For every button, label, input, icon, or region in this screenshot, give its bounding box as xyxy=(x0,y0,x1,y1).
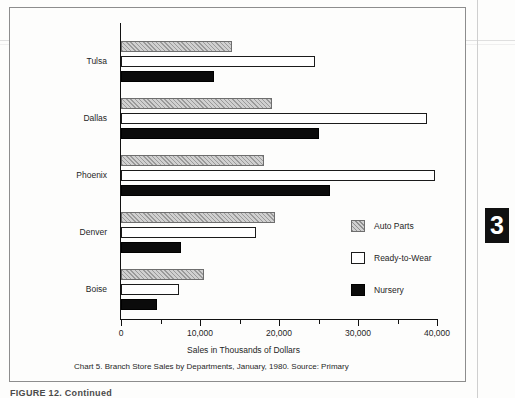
page-thumb-tab: 3 xyxy=(485,208,509,243)
bar-tulsa-nursery xyxy=(121,71,214,82)
x-tick-0 xyxy=(121,319,122,326)
legend-item: Ready-to-Wear xyxy=(351,251,471,265)
bar-dallas-ready-to-wear xyxy=(121,113,427,124)
legend-item: Nursery xyxy=(351,283,471,297)
x-tick-label-40000: 40,000 xyxy=(424,328,450,338)
legend-item: Auto Parts xyxy=(351,219,471,233)
x-axis-title-text: Sales in Thousands of Dollars xyxy=(187,345,300,355)
bar-group xyxy=(121,98,437,143)
x-tick-label-20000: 20,000 xyxy=(266,328,292,338)
legend-swatch-nursery xyxy=(351,284,365,296)
bar-phoenix-nursery xyxy=(121,185,330,196)
x-tick-label-0: 0 xyxy=(119,328,124,338)
figure-caption-cutoff: FIGURE 12. Continued xyxy=(10,388,112,398)
x-tick-label-10000: 10,000 xyxy=(187,328,213,338)
bar-boise-ready-to-wear xyxy=(121,284,179,295)
legend-label-nursery: Nursery xyxy=(374,285,404,295)
bar-group xyxy=(121,41,437,86)
category-label-denver: Denver xyxy=(80,227,107,237)
bar-tulsa-ready-to-wear xyxy=(121,56,315,67)
caption-line-2: Source: Primary xyxy=(291,361,348,372)
chart-legend: Auto Parts Ready-to-Wear Nursery xyxy=(351,219,471,315)
bar-denver-auto-parts xyxy=(121,212,275,223)
bar-boise-nursery xyxy=(121,299,157,310)
bar-denver-ready-to-wear xyxy=(121,227,256,238)
y-axis-line xyxy=(120,23,121,319)
x-tick-5000 xyxy=(161,319,162,324)
legend-swatch-auto-parts xyxy=(351,220,365,232)
bar-phoenix-auto-parts xyxy=(121,155,264,166)
x-tick-35000 xyxy=(398,319,399,324)
x-tick-40000 xyxy=(437,319,438,326)
x-tick-20000 xyxy=(279,319,280,326)
x-tick-label-30000: 30,000 xyxy=(345,328,371,338)
legend-label-ready-to-wear: Ready-to-Wear xyxy=(374,253,431,263)
category-label-phoenix: Phoenix xyxy=(76,170,107,180)
x-tick-25000 xyxy=(319,319,320,324)
caption-line-1: Chart 5. Branch Store Sales by Departmen… xyxy=(74,361,289,372)
x-tick-10000 xyxy=(200,319,201,326)
thumb-tab-number: 3 xyxy=(490,211,504,240)
bar-group xyxy=(121,155,437,200)
legend-swatch-ready-to-wear xyxy=(351,252,365,264)
bar-boise-auto-parts xyxy=(121,269,204,280)
bar-dallas-auto-parts xyxy=(121,98,272,109)
bar-denver-nursery xyxy=(121,242,181,253)
chart-caption: Chart 5. Branch Store Sales by Departmen… xyxy=(74,360,349,372)
category-label-column: TulsaDallasPhoenixDenverBoise xyxy=(10,23,115,319)
category-label-tulsa: Tulsa xyxy=(87,56,107,66)
bar-tulsa-auto-parts xyxy=(121,41,232,52)
chart-frame: TulsaDallasPhoenixDenverBoise 010,00020,… xyxy=(9,7,466,382)
x-tick-30000 xyxy=(358,319,359,326)
bar-dallas-nursery xyxy=(121,128,319,139)
category-label-dallas: Dallas xyxy=(83,113,107,123)
category-label-boise: Boise xyxy=(86,284,107,294)
bar-phoenix-ready-to-wear xyxy=(121,170,435,181)
legend-label-auto-parts: Auto Parts xyxy=(374,221,414,231)
page-spine xyxy=(477,0,478,398)
x-tick-15000 xyxy=(240,319,241,324)
x-axis-title: Sales in Thousands of Dollars xyxy=(10,345,515,355)
page-canvas: TulsaDallasPhoenixDenverBoise 010,00020,… xyxy=(0,0,515,398)
